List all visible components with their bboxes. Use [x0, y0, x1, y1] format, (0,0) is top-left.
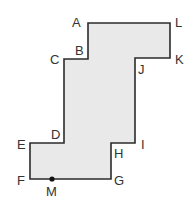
vertex-label-f: F: [17, 173, 25, 188]
vertex-label-d: D: [51, 127, 60, 142]
vertex-label-g: G: [114, 173, 124, 188]
vertex-label-e: E: [17, 137, 26, 152]
vertex-label-k: K: [175, 52, 184, 67]
point-m-dot: [49, 176, 54, 181]
diagram-canvas: ALKJIHGFEDCB M: [0, 0, 193, 206]
point-label-m: M: [46, 184, 57, 199]
vertex-label-l: L: [175, 15, 182, 30]
vertex-label-h: H: [114, 146, 123, 161]
polygon-shape: [30, 23, 170, 179]
vertex-label-b: B: [75, 43, 84, 58]
vertex-label-i: I: [141, 137, 145, 152]
vertex-label-c: C: [50, 52, 59, 67]
vertex-label-a: A: [72, 15, 81, 30]
vertex-label-j: J: [138, 62, 145, 77]
